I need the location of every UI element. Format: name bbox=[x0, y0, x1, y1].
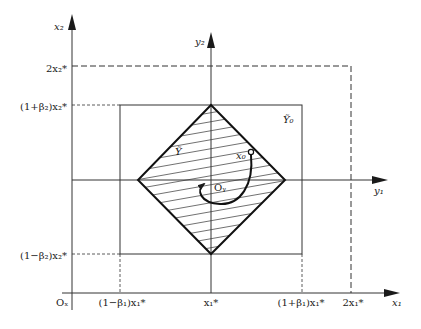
point-x0 bbox=[248, 149, 253, 154]
y1-axis-arrow-icon bbox=[372, 176, 388, 184]
x-axes bbox=[62, 14, 400, 310]
tick-x2-1minusbeta: (1−β₂)x₂* bbox=[20, 250, 67, 261]
tick-x2-2xstar: 2x₂* bbox=[46, 63, 67, 74]
tick-x2-1plusbeta: (1+β₂)x₂* bbox=[20, 101, 67, 112]
diagram-canvas: x₂ x₁ Oₓ y₂ y₁ Oᵧ 2x₂* (1+β₂)x₂* (1−β₂)x… bbox=[0, 0, 421, 329]
x2-axis-arrow-icon bbox=[68, 14, 76, 30]
y2-axis-arrow-icon bbox=[207, 32, 215, 48]
tick-x1-1minusbeta: (1−β₁)x₁* bbox=[99, 297, 146, 308]
label-origin-y: Oᵧ bbox=[214, 182, 226, 193]
label-region-y: Ỹ bbox=[175, 146, 183, 157]
tick-x1-1plusbeta: (1+β₁)x₁* bbox=[278, 297, 325, 308]
tick-x1-xstar: x₁* bbox=[204, 297, 219, 308]
x1-axis-arrow-icon bbox=[384, 289, 400, 297]
label-x1-axis: x₁ bbox=[392, 297, 402, 308]
guide-lines-dashed bbox=[72, 105, 302, 293]
label-y1-axis: y₁ bbox=[373, 185, 384, 196]
label-region-y0: Ỹ₀ bbox=[283, 114, 294, 125]
label-origin-x: Oₓ bbox=[56, 297, 68, 308]
label-y2-axis: y₂ bbox=[194, 36, 205, 47]
tick-x1-2xstar: 2x₁* bbox=[342, 297, 363, 308]
label-x2-axis: x₂ bbox=[54, 21, 64, 32]
label-point-x0: x₀ bbox=[236, 150, 246, 161]
